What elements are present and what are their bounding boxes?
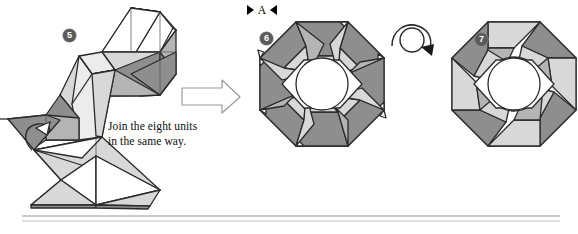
caption-line-2: in the same way. <box>108 134 228 149</box>
section-marker-label: A <box>258 5 266 16</box>
step-7-figure <box>452 22 576 146</box>
step-5-figure <box>0 8 176 209</box>
section-marker-a: A <box>232 2 292 18</box>
turn-over-circular-arrow-icon <box>392 25 434 56</box>
step-number-badge-6: 6 <box>260 32 273 45</box>
triangle-left-icon <box>270 5 277 15</box>
block-arrow-right-icon <box>182 80 240 113</box>
triangle-right-icon <box>247 5 254 15</box>
footer-rules <box>22 216 560 221</box>
step-6-figure <box>258 22 386 146</box>
step-number-badge-7: 7 <box>475 33 488 46</box>
caption-line-1: Join the eight units <box>108 119 228 134</box>
diagram-artwork: .o { stroke:#2b2b2b; stroke-width:1.3; s… <box>0 0 578 234</box>
step-number-badge-5: 5 <box>63 29 76 42</box>
instruction-caption: Join the eight units in the same way. <box>108 119 228 149</box>
origami-instruction-page: .o { stroke:#2b2b2b; stroke-width:1.3; s… <box>0 0 578 234</box>
